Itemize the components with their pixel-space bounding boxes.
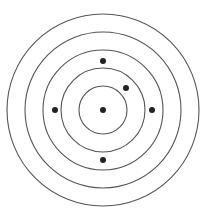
dot-top bbox=[100, 58, 106, 64]
dot-upper-right bbox=[123, 85, 129, 91]
concentric-target-diagram bbox=[0, 0, 206, 216]
dot-left bbox=[52, 107, 58, 113]
dot-center bbox=[100, 107, 106, 113]
dot-bottom bbox=[100, 157, 106, 163]
dot-right bbox=[149, 107, 155, 113]
dots-group bbox=[52, 58, 155, 163]
